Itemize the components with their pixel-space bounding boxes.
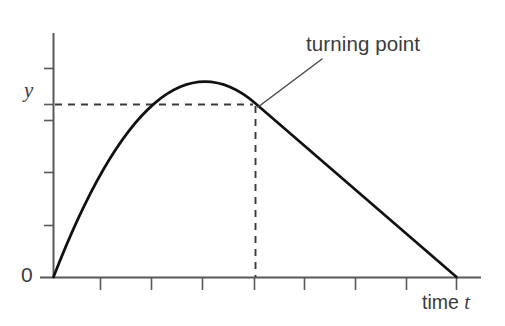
origin-label: 0: [21, 264, 33, 285]
x-axis-label: time t: [422, 292, 470, 313]
figure-canvas: turning point y 0 time t: [0, 0, 505, 326]
turning-point-label: turning point: [306, 34, 420, 55]
x-axis-label-variable: t: [464, 291, 470, 313]
x-axis-label-text: time: [422, 291, 464, 313]
y-axis-label: y: [24, 80, 33, 101]
parabola-chart-svg: [0, 0, 505, 326]
y-axis-ticks: [44, 69, 53, 226]
x-axis-ticks: [101, 278, 457, 290]
turning-point-leader-line: [258, 59, 322, 107]
